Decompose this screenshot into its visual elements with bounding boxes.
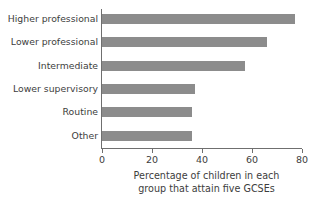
bar-row: Routine xyxy=(102,101,302,124)
x-tick-label: 80 xyxy=(287,154,317,165)
bar xyxy=(102,84,195,94)
x-tick-label: 0 xyxy=(87,154,117,165)
bar xyxy=(102,14,295,24)
x-axis-title-line-2: group that attain five GCSEs xyxy=(96,182,317,195)
bar xyxy=(102,37,267,47)
category-label: Higher professional xyxy=(1,13,98,24)
category-label: Lower supervisory xyxy=(1,83,98,94)
bar-chart: Higher professionalLower professionalInt… xyxy=(0,0,317,207)
x-axis-title: Percentage of children in each group tha… xyxy=(96,169,317,195)
category-label: Lower professional xyxy=(1,36,98,47)
x-tick-label: 60 xyxy=(237,154,267,165)
x-tick-mark xyxy=(252,149,253,153)
plot-area: Higher professionalLower professionalInt… xyxy=(102,8,302,148)
bar-row: Other xyxy=(102,125,302,148)
bar xyxy=(102,107,192,117)
x-tick-label: 40 xyxy=(187,154,217,165)
bar xyxy=(102,61,245,71)
bar-row: Lower professional xyxy=(102,31,302,54)
x-tick-mark xyxy=(302,149,303,153)
bar-row: Intermediate xyxy=(102,55,302,78)
x-tick-mark xyxy=(152,149,153,153)
bar-row: Lower supervisory xyxy=(102,78,302,101)
bar xyxy=(102,131,192,141)
x-tick-mark xyxy=(102,149,103,153)
x-tick-label: 20 xyxy=(137,154,167,165)
category-label: Other xyxy=(1,130,98,141)
x-tick-mark xyxy=(202,149,203,153)
category-label: Routine xyxy=(1,106,98,117)
x-axis-title-line-1: Percentage of children in each xyxy=(96,169,317,182)
category-label: Intermediate xyxy=(1,60,98,71)
bar-row: Higher professional xyxy=(102,8,302,31)
